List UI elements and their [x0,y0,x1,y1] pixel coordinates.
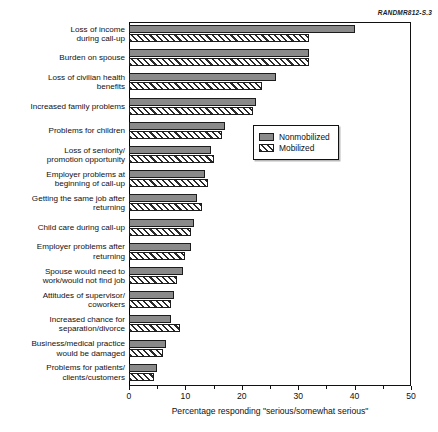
x-axis-tick-minor [214,386,215,389]
category-label: Increased chance forseparation/divorce [0,315,125,334]
category-label: Business/medical practicewould be damage… [0,339,125,358]
bar-nonmobilized [129,291,174,299]
bar-nonmobilized [129,315,171,323]
category-label: Problems for patients/clients/customers [0,363,125,382]
bar-nonmobilized [129,49,309,57]
category-label-line: Loss of civilian health [0,73,125,82]
bar-nonmobilized [129,219,194,227]
category-label-line: Employer problems after [0,242,125,251]
category-label-line: Increased family problems [0,102,125,111]
x-axis-tick-label: 50 [406,391,416,401]
category-label: Loss of civilian healthbenefits [0,73,125,92]
category-label-line: Problems for children [0,126,125,135]
category-label-line: Burden on spouse [0,53,125,62]
category-label-line: would be damaged [0,349,125,358]
x-axis-tick-label: 40 [350,391,360,401]
x-axis-tick-minor [383,386,384,389]
chart-rows: Loss of incomeduring call-upBurden on sp… [0,22,438,386]
source-id-label: RANDMR812-S.3 [378,9,432,16]
legend-label-nonmobilized: Nonmobilized [279,132,330,142]
category-label-line: benefits [0,82,125,91]
category-label: Employer problems atbeginning of call-up [0,170,125,189]
bar-nonmobilized [129,122,225,130]
x-axis-tick-minor [326,386,327,389]
category-label-line: during call-up [0,34,125,43]
chart-legend: Nonmobilized Mobilized [253,125,339,160]
category-label: Burden on spouse [0,53,125,62]
bar-mobilized [129,276,177,284]
category-label-line: Problems for patients/ [0,363,125,372]
bar-nonmobilized [129,146,211,154]
category-label: Child care during call-up [0,223,125,232]
x-axis-tick-minor [157,386,158,389]
category-label-line: Loss of seniority/ [0,146,125,155]
x-axis-tick-label: 10 [181,391,191,401]
category-label-line: Business/medical practice [0,339,125,348]
bar-nonmobilized [129,267,183,275]
x-axis-title: Percentage responding "serious/somewhat … [129,406,411,416]
category-label: Increased family problems [0,102,125,111]
category-label: Loss of seniority/promotion opportunity [0,146,125,165]
category-label-line: Child care during call-up [0,223,125,232]
category-label-line: returning [0,203,125,212]
bar-mobilized [129,107,253,115]
category-label-line: Spouse would need to [0,267,125,276]
bar-mobilized [129,228,191,236]
bar-mobilized [129,252,185,260]
bar-mobilized [129,155,214,163]
legend-label-mobilized: Mobilized [279,143,314,153]
bar-chart-figure: RANDMR812-S.3 Loss of incomeduring call-… [0,0,438,432]
category-label-line: Loss of income [0,25,125,34]
category-label: Getting the same job afterreturning [0,194,125,213]
x-axis-tick-minor [270,386,271,389]
x-axis-tick-label: 30 [293,391,303,401]
bar-nonmobilized [129,194,197,202]
bar-nonmobilized [129,340,166,348]
x-axis-tick-major [242,386,243,390]
legend-item-mobilized: Mobilized [259,143,330,153]
category-label-line: returning [0,252,125,261]
category-label-line: Increased chance for [0,315,125,324]
bar-mobilized [129,179,208,187]
category-label-line: separation/divorce [0,324,125,333]
category-label-line: beginning of call-up [0,179,125,188]
x-axis: Percentage responding "serious/somewhat … [129,386,411,432]
category-label-line: promotion opportunity [0,155,125,164]
bar-mobilized [129,58,309,66]
legend-item-nonmobilized: Nonmobilized [259,132,330,142]
bar-nonmobilized [129,243,191,251]
category-label-line: Getting the same job after [0,194,125,203]
bar-nonmobilized [129,98,256,106]
bar-nonmobilized [129,25,355,33]
bar-nonmobilized [129,170,205,178]
bar-mobilized [129,324,180,332]
x-axis-tick-major [411,386,412,390]
legend-swatch-nonmobilized [259,133,274,141]
category-label-line: clients/customers [0,373,125,382]
bar-mobilized [129,34,309,42]
bar-mobilized [129,373,154,381]
x-axis-tick-label: 20 [237,391,247,401]
bar-mobilized [129,203,202,211]
category-label: Spouse would need towork/would not find … [0,267,125,286]
x-axis-tick-major [185,386,186,390]
category-label-line: coworkers [0,300,125,309]
category-label-line: Attitudes of supervisor/ [0,291,125,300]
x-axis-tick-major [298,386,299,390]
bar-mobilized [129,300,171,308]
category-label: Problems for children [0,126,125,135]
bar-mobilized [129,349,163,357]
bar-mobilized [129,82,262,90]
category-label: Attitudes of supervisor/coworkers [0,291,125,310]
x-axis-tick-major [355,386,356,390]
category-label: Loss of incomeduring call-up [0,25,125,44]
x-axis-tick-label: 0 [127,391,132,401]
category-label-line: work/would not find job [0,276,125,285]
bar-nonmobilized [129,73,276,81]
x-axis-tick-major [129,386,130,390]
category-label-line: Employer problems at [0,170,125,179]
bar-nonmobilized [129,364,157,372]
legend-swatch-mobilized [259,144,274,152]
bar-mobilized [129,131,222,139]
category-label: Employer problems afterreturning [0,242,125,261]
